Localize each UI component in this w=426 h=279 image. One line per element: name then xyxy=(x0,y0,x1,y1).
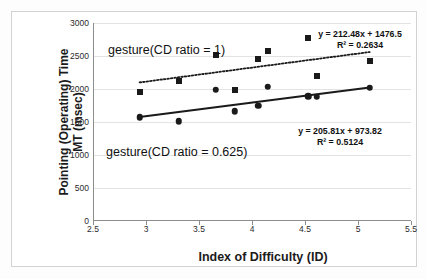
data-point-cd1 xyxy=(265,48,271,54)
series-label-cd0625: gesture(CD ratio = 0.625) xyxy=(106,145,247,159)
data-point-cd0625 xyxy=(265,83,272,90)
data-point-cd0625 xyxy=(232,108,239,115)
x-tick-mark xyxy=(252,221,253,225)
x-tick-mark xyxy=(199,221,200,225)
data-point-cd0625 xyxy=(213,86,220,93)
x-tick-label: 5.5 xyxy=(405,224,417,234)
equation-cd0625-r2: R² = 0.5124 xyxy=(317,137,363,147)
data-point-cd0625 xyxy=(366,84,373,91)
data-point-cd0625 xyxy=(176,118,183,125)
data-point-cd1 xyxy=(314,73,320,79)
x-tick-label: 4.5 xyxy=(299,224,311,234)
data-point-cd1 xyxy=(367,58,373,64)
x-tick-mark xyxy=(305,221,306,225)
x-tick-mark xyxy=(93,221,94,225)
y-tick-label: 2500 xyxy=(49,51,89,61)
equation-cd0625: y = 205.81x + 973.82 R² = 0.5124 xyxy=(270,126,410,148)
x-tick-label: 4 xyxy=(250,224,255,234)
x-tick-label: 2.5 xyxy=(87,224,99,234)
data-point-cd0625 xyxy=(255,103,262,110)
trendline-cd0625 xyxy=(140,87,370,116)
data-point-cd1 xyxy=(232,87,238,93)
x-tick-label: 3.5 xyxy=(193,224,205,234)
y-tick-label: 0 xyxy=(49,216,89,226)
equation-cd1-text: y = 212.48x + 1476.5 xyxy=(318,29,402,39)
x-tick-mark xyxy=(411,221,412,225)
data-point-cd0625 xyxy=(305,93,312,100)
data-point-cd1 xyxy=(137,89,143,95)
equation-cd1: y = 212.48x + 1476.5 R² = 0.2634 xyxy=(295,29,425,51)
x-axis-title: Index of Difficulty (ID) xyxy=(104,250,422,264)
data-point-cd0625 xyxy=(136,114,143,121)
x-tick-label: 3 xyxy=(144,224,149,234)
data-point-cd1 xyxy=(176,78,182,84)
data-point-cd1 xyxy=(255,56,261,62)
figure-container: Pointing (Operating) Time MT (msec) 0500… xyxy=(0,0,426,279)
y-tick-label: 2000 xyxy=(49,84,89,94)
x-tick-label: 5 xyxy=(356,224,361,234)
y-tick-label: 3000 xyxy=(49,18,89,28)
equation-cd1-r2: R² = 0.2634 xyxy=(337,40,383,50)
x-tick-mark xyxy=(358,221,359,225)
series-label-cd1: gesture(CD ratio = 1) xyxy=(108,43,225,57)
equation-cd0625-text: y = 205.81x + 973.82 xyxy=(298,126,382,136)
figure-frame: Pointing (Operating) Time MT (msec) 0500… xyxy=(11,11,417,267)
y-tick-label: 500 xyxy=(49,183,89,193)
x-tick-mark xyxy=(146,221,147,225)
y-tick-label: 1500 xyxy=(49,117,89,127)
data-point-cd0625 xyxy=(313,94,320,101)
y-tick-label: 1000 xyxy=(49,150,89,160)
